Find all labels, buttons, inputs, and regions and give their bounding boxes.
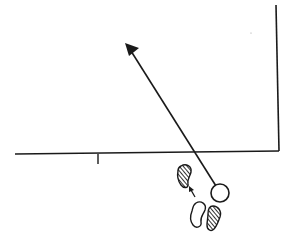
ball-circle [211,184,229,202]
horizontal-wall-line [15,151,279,154]
trajectory-arrow [131,51,216,186]
footprint-white-icon [191,202,206,227]
vertical-wall-line [276,5,279,151]
footprint-hatched-upper-icon [178,165,191,188]
footprint-hatched-lower-icon [207,206,221,230]
step-arrow [191,190,195,197]
speck [250,32,251,33]
diagram-canvas [0,0,291,242]
